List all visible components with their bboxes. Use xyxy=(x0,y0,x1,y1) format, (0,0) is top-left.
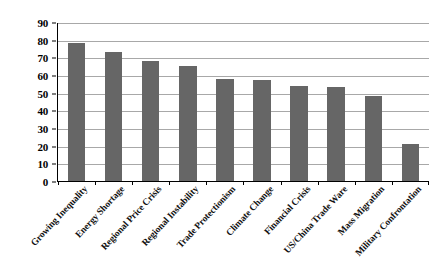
bar[interactable] xyxy=(216,79,233,181)
bar-slot xyxy=(169,23,206,181)
bar-slot xyxy=(281,23,318,181)
x-axis-tick-mark xyxy=(428,181,429,185)
x-axis-tick-mark xyxy=(132,181,133,185)
x-axis-tick-mark xyxy=(392,181,393,185)
bar[interactable] xyxy=(142,61,159,181)
y-axis-tick-mark xyxy=(52,23,56,24)
y-axis-tick-mark xyxy=(52,182,56,183)
y-axis-tick-label: 50 xyxy=(37,88,48,100)
x-axis-label: US/China Trade Ware xyxy=(282,184,349,255)
bar[interactable] xyxy=(253,80,270,181)
y-axis-tick-label: 70 xyxy=(37,52,48,64)
y-axis-tick-mark xyxy=(52,129,56,130)
y-axis-tick-mark xyxy=(52,76,56,77)
plot-area xyxy=(57,23,429,182)
y-axis-tick-label: 20 xyxy=(37,141,48,153)
y-axis-tick-mark xyxy=(52,93,56,94)
bar-slot xyxy=(355,23,392,181)
y-axis-tick-label: 90 xyxy=(37,17,48,29)
x-axis-tick-mark xyxy=(169,181,170,185)
y-axis-tick-label: 80 xyxy=(37,35,48,47)
bar-slot xyxy=(132,23,169,181)
bars-container xyxy=(58,23,429,181)
bar[interactable] xyxy=(105,52,122,181)
bar-slot xyxy=(243,23,280,181)
bar[interactable] xyxy=(327,87,344,181)
x-axis-tick-mark xyxy=(206,181,207,185)
x-axis-tick-mark xyxy=(58,181,59,185)
bar[interactable] xyxy=(290,86,307,181)
bar-chart: 9080706050403020100 Growing InequalityEn… xyxy=(0,0,446,277)
bar[interactable] xyxy=(68,43,85,181)
y-axis-tick-label: 30 xyxy=(37,123,48,135)
bar-slot xyxy=(392,23,429,181)
y-axis-tick-mark xyxy=(52,111,56,112)
bar-slot xyxy=(58,23,95,181)
x-axis-label: Military Confrontation xyxy=(354,184,424,258)
x-axis-tick-mark xyxy=(355,181,356,185)
bar[interactable] xyxy=(179,66,196,181)
bar-slot xyxy=(318,23,355,181)
bar-slot xyxy=(206,23,243,181)
y-axis-tick-mark xyxy=(52,58,56,59)
y-axis-tick-label: 10 xyxy=(37,158,48,170)
y-axis-tick-mark xyxy=(52,146,56,147)
x-axis-tick-mark xyxy=(243,181,244,185)
x-axis-tick-mark xyxy=(95,181,96,185)
y-axis-tick-mark xyxy=(52,40,56,41)
bar[interactable] xyxy=(402,144,419,181)
x-axis-labels: Growing InequalityEnergy ShortageRegiona… xyxy=(57,184,429,277)
x-axis-tick-mark xyxy=(281,181,282,185)
bar[interactable] xyxy=(365,96,382,181)
x-axis-tick-mark xyxy=(318,181,319,185)
y-axis-tick-label: 60 xyxy=(37,70,48,82)
y-axis-tick-mark xyxy=(52,164,56,165)
y-axis-tick-label: 0 xyxy=(43,176,48,188)
y-axis-tick-label: 40 xyxy=(37,105,48,117)
bar-slot xyxy=(95,23,132,181)
